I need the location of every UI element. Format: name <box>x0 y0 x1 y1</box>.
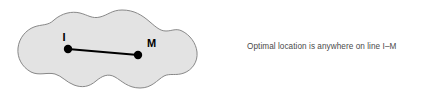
figure-caption: Optimal location is anywhere on line I–M <box>247 41 396 52</box>
point-i-label: I <box>62 31 65 43</box>
point-m-dot <box>134 51 142 59</box>
point-m-label: M <box>147 37 156 49</box>
point-i-dot <box>64 45 72 53</box>
optimal-location-figure: I M Optimal location is anywhere on line… <box>0 0 437 93</box>
service-region-blob <box>18 10 197 88</box>
